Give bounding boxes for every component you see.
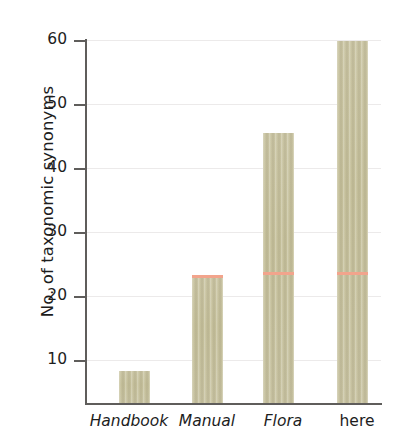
reference-marker-manual bbox=[192, 275, 223, 278]
bar-here bbox=[337, 41, 368, 404]
y-axis-line bbox=[85, 39, 87, 405]
y-tick-30 bbox=[74, 232, 86, 234]
bar-manual bbox=[192, 275, 223, 404]
y-tick-label-20: 20 bbox=[23, 288, 67, 304]
y-tick-60 bbox=[74, 40, 86, 42]
y-tick-50 bbox=[74, 104, 86, 106]
reference-marker-flora bbox=[263, 272, 294, 275]
plot-area bbox=[86, 40, 381, 404]
reference-marker-here bbox=[337, 272, 368, 275]
bar-chart: No. of taxonomic synonyms 60 50 40 30 2 bbox=[0, 0, 395, 447]
y-tick-40 bbox=[74, 168, 86, 170]
y-tick-label-30: 30 bbox=[23, 224, 67, 240]
y-tick-label-60: 60 bbox=[23, 32, 67, 48]
bar-handbook bbox=[119, 371, 150, 404]
y-tick-label-40: 40 bbox=[23, 160, 67, 176]
y-tick-10 bbox=[74, 360, 86, 362]
y-axis-title: No. of taxonomic synonyms bbox=[38, 37, 57, 367]
y-tick-label-10: 10 bbox=[23, 352, 67, 368]
y-tick-label-50: 50 bbox=[23, 96, 67, 112]
bar-flora bbox=[263, 133, 294, 404]
y-tick-20 bbox=[74, 296, 86, 298]
x-axis-line bbox=[85, 403, 382, 405]
x-label-handbook: Handbook bbox=[84, 412, 174, 430]
x-label-here: here bbox=[312, 412, 395, 430]
